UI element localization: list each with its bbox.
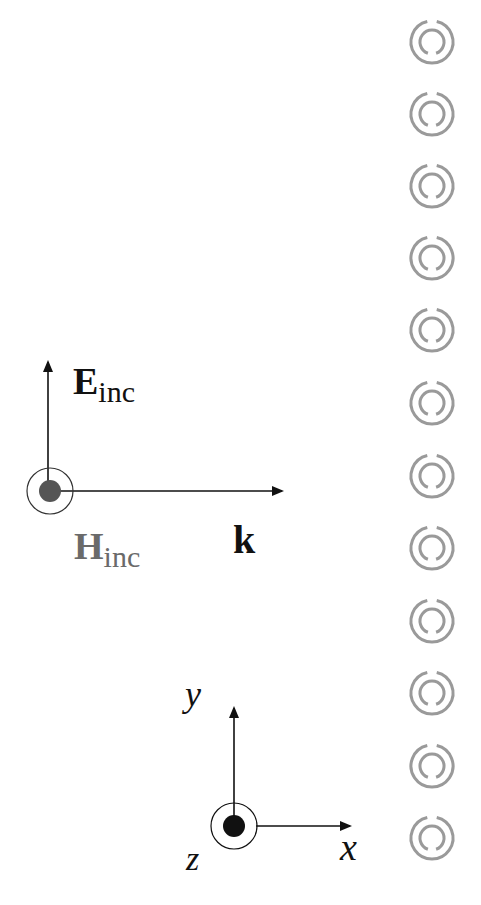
h-field-label: Hinc [74,527,140,565]
split-ring-resonator [411,528,453,569]
outer-ring [411,456,453,497]
inner-ring [420,609,444,632]
inner-ring [420,318,444,341]
outer-ring [411,94,453,135]
split-ring-resonator-array [411,22,453,859]
inner-ring [420,464,444,487]
outer-ring [411,746,453,787]
inner-ring [420,30,444,53]
split-ring-resonator [411,166,453,207]
outer-ring [411,528,453,569]
split-ring-resonator [411,94,453,135]
inner-ring [420,681,444,704]
split-ring-resonator [411,238,453,279]
z-axis-label: z [186,842,199,876]
inner-ring [420,391,444,414]
e-field-symbol: E [73,360,98,402]
e-field-label: Einc [73,362,135,400]
inner-ring [420,754,444,777]
inner-ring [420,246,444,269]
split-ring-resonator [411,818,453,859]
split-ring-resonator [411,310,453,351]
wave-vector-label: k [233,520,255,560]
outer-ring [411,601,453,642]
h-field-subscript: inc [104,540,141,573]
diagram-canvas [0,0,481,905]
split-ring-resonator [411,746,453,787]
split-ring-resonator [411,601,453,642]
inner-ring [420,102,444,125]
split-ring-resonator [411,22,453,63]
x-axis-label: x [340,828,357,866]
outer-ring [411,22,453,63]
split-ring-resonator [411,673,453,714]
inner-ring [420,536,444,559]
inner-ring [420,174,444,197]
split-ring-resonator [411,383,453,424]
outer-ring [411,673,453,714]
outer-ring [411,383,453,424]
outer-ring [411,166,453,207]
outer-ring [411,310,453,351]
split-ring-resonator [411,456,453,497]
outer-ring [411,238,453,279]
h-field-symbol: H [74,525,104,567]
e-field-subscript: inc [98,375,135,408]
outer-ring [411,818,453,859]
y-axis-label: y [185,676,201,712]
inner-ring [420,826,444,849]
